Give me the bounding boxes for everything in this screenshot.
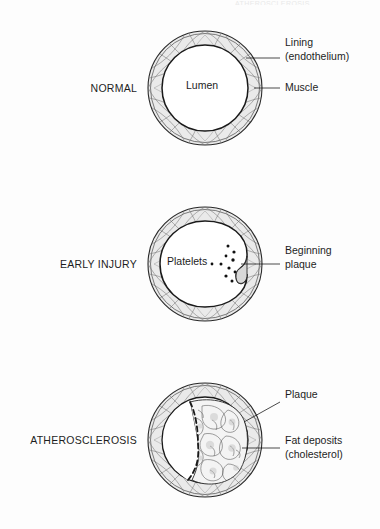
stage-label-normal: NORMAL — [0, 82, 137, 94]
panel-normal: NORMAL — [0, 0, 380, 176]
callout-lining: Lining (endothelium) — [285, 36, 349, 63]
callout-beginning-plaque: Beginning plaque — [285, 244, 332, 271]
panel-early-injury: EARLY INJURY — [0, 176, 380, 352]
callout-fat-deposits: Fat deposits (cholesterol) — [285, 434, 343, 461]
callout-muscle: Muscle — [285, 81, 318, 95]
callout-plaque: Plaque — [285, 388, 318, 402]
plaque-mass — [190, 400, 247, 484]
artery-cross-section-normal — [140, 8, 380, 168]
artery-cross-section-atherosclerosis — [140, 360, 380, 520]
inner-label-platelets: Platelets — [167, 255, 207, 267]
artery-atherosclerosis-figure: ATHEROSCLEROSIS NORMAL — [0, 0, 380, 529]
stage-label-early-injury: EARLY INJURY — [0, 258, 137, 270]
stage-label-atherosclerosis: ATHEROSCLEROSIS — [0, 434, 137, 446]
inner-label-lumen: Lumen — [186, 79, 218, 91]
panel-atherosclerosis: ATHEROSCLEROSIS — [0, 352, 380, 529]
